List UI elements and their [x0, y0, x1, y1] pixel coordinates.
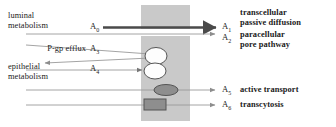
- transport-pathway-diagram: luminal metabolism P-gp efflux epithelia…: [0, 0, 336, 127]
- symbol-A3: A3: [90, 44, 99, 53]
- epithelial-metabolism-vesicle: [144, 63, 166, 79]
- symbol-A0: A0: [90, 22, 99, 31]
- label-active-transport-text: active transport: [240, 85, 299, 94]
- symbol-A2: A2: [222, 33, 231, 42]
- symbol-A6: A6: [222, 100, 231, 109]
- label-transcellular-passive-diffusion-line2: passive diffusion: [240, 18, 301, 28]
- symbol-A1: A1: [222, 22, 231, 31]
- label-paracellular-pore-pathway-line1: paracellular: [240, 30, 290, 40]
- symbol-A5-sub: 5: [228, 90, 231, 96]
- symbol-A1-sub: 1: [228, 27, 231, 33]
- symbol-A6-sub: 6: [228, 105, 231, 111]
- symbol-A3-sub: 3: [96, 49, 99, 55]
- label-epithelial-metabolism-line1: epithelial: [8, 62, 86, 72]
- label-epithelial-metabolism: epithelial metabolism: [8, 62, 86, 82]
- active-transport-carrier: [154, 85, 178, 96]
- symbol-A4: A4: [90, 64, 99, 73]
- membrane-band-upper: [141, 5, 190, 29]
- symbol-A0-sub: 0: [96, 27, 99, 33]
- symbol-A2-sub: 2: [228, 38, 231, 44]
- label-transcytosis-text: transcytosis: [240, 100, 284, 109]
- label-active-transport: active transport: [240, 85, 299, 95]
- label-transcytosis: transcytosis: [240, 100, 284, 110]
- label-transcellular-passive-diffusion: transcellular passive diffusion: [240, 8, 301, 28]
- label-pgp-efflux-text: P-gp efflux: [47, 44, 86, 53]
- symbol-A5: A5: [222, 85, 231, 94]
- label-luminal-metabolism: luminal metabolism: [8, 11, 86, 31]
- label-paracellular-pore-pathway-line2: pore pathway: [240, 40, 290, 50]
- label-luminal-metabolism-line1: luminal: [8, 11, 86, 21]
- label-pgp-efflux: P-gp efflux: [8, 44, 86, 54]
- symbol-A4-sub: 4: [96, 69, 99, 75]
- pgp-efflux-vesicle: [145, 48, 167, 65]
- label-luminal-metabolism-line2: metabolism: [8, 21, 86, 31]
- label-paracellular-pore-pathway: paracellular pore pathway: [240, 30, 290, 50]
- label-transcellular-passive-diffusion-line1: transcellular: [240, 8, 301, 18]
- label-epithelial-metabolism-line2: metabolism: [8, 72, 86, 82]
- transcytosis-vesicle: [144, 99, 166, 110]
